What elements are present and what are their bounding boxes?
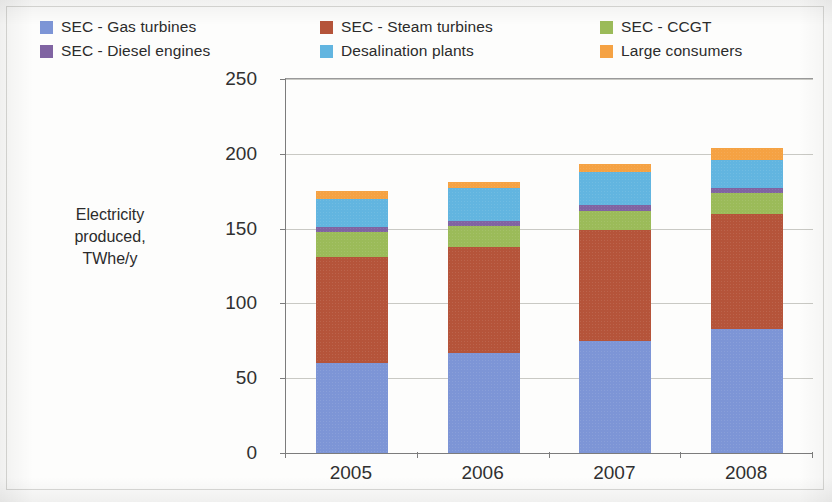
bar-segment[interactable] [711, 193, 783, 214]
plot-area: 050100150200250 [285, 78, 813, 454]
x-axis-tick-label: 2008 [686, 462, 806, 484]
bar-segment[interactable] [579, 211, 651, 230]
y-axis-title: Electricity produced, TWhe/y [22, 204, 198, 270]
bar-segment[interactable] [316, 199, 388, 227]
bar-segment[interactable] [579, 205, 651, 211]
y-axis-tick-label: 200 [187, 143, 257, 165]
bar-segment[interactable] [448, 353, 520, 453]
x-axis-tick [285, 452, 286, 458]
bar-segment[interactable] [579, 172, 651, 205]
bar-stack[interactable] [579, 79, 651, 453]
y-axis-tick-label: 100 [187, 292, 257, 314]
bar-segment[interactable] [711, 329, 783, 453]
bar-segment[interactable] [316, 232, 388, 257]
x-axis-tick-label: 2007 [554, 462, 674, 484]
bar-segment[interactable] [316, 227, 388, 231]
bar-stack[interactable] [711, 79, 783, 453]
y-axis-title-line-1: Electricity [22, 204, 198, 226]
bar-segment[interactable] [448, 221, 520, 225]
bar-segment[interactable] [448, 247, 520, 353]
y-axis-title-line-3: TWhe/y [22, 248, 198, 270]
y-axis-tick-label: 50 [187, 367, 257, 389]
x-axis-tick [680, 452, 681, 458]
x-axis-tick [812, 452, 813, 458]
bar-segment[interactable] [579, 230, 651, 341]
stacked-bar-chart: Electricity produced, TWhe/y 05010015020… [0, 0, 832, 502]
scanned-figure-page: SEC - Gas turbines SEC - Steam turbines … [0, 0, 832, 502]
y-axis-title-line-2: produced, [22, 226, 198, 248]
bar-segment[interactable] [711, 148, 783, 160]
bar-segment[interactable] [448, 226, 520, 247]
y-axis-tick-label: 150 [187, 218, 257, 240]
bar-segment[interactable] [711, 160, 783, 188]
x-axis-tick-label: 2005 [291, 462, 411, 484]
y-axis-tick [280, 378, 286, 379]
y-axis-tick [280, 229, 286, 230]
y-axis-tick [280, 79, 286, 80]
bar-stack[interactable] [316, 79, 388, 453]
bar-segment[interactable] [448, 188, 520, 221]
bar-segment[interactable] [711, 188, 783, 192]
bar-segment[interactable] [579, 164, 651, 171]
y-axis-tick-label: 0 [187, 442, 257, 464]
y-axis-tick [280, 154, 286, 155]
bar-stack[interactable] [448, 79, 520, 453]
y-axis-tick-label: 250 [187, 68, 257, 90]
x-axis-tick-label: 2006 [423, 462, 543, 484]
bar-segment[interactable] [316, 363, 388, 453]
bar-segment[interactable] [711, 214, 783, 329]
y-axis-tick [280, 303, 286, 304]
bar-segment[interactable] [316, 191, 388, 198]
x-axis-tick [417, 452, 418, 458]
x-axis-tick [549, 452, 550, 458]
bar-segment[interactable] [579, 341, 651, 453]
bar-segment[interactable] [316, 257, 388, 363]
bar-segment[interactable] [448, 182, 520, 188]
